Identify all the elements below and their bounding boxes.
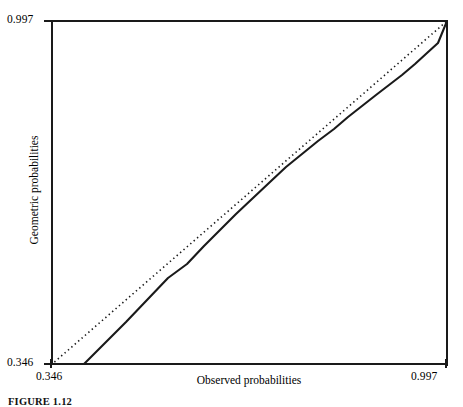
chart-data-layer [51,21,447,365]
y-axis-title: Geometric probabilities [28,110,42,270]
reference-diagonal-line [51,21,447,365]
x-axis-tick-right [445,359,447,368]
y-axis-tick-label-upper: 0.997 [7,14,33,26]
x-axis-title: Observed probabilities [51,374,447,386]
y-axis-tick-label-lower: 0.346 [7,357,33,369]
geometric-pp-curve [83,21,447,365]
y-axis-tick-upper [44,20,53,22]
figure-caption: FIGURE 1.12 [8,396,72,407]
x-axis-tick-left [50,359,52,368]
